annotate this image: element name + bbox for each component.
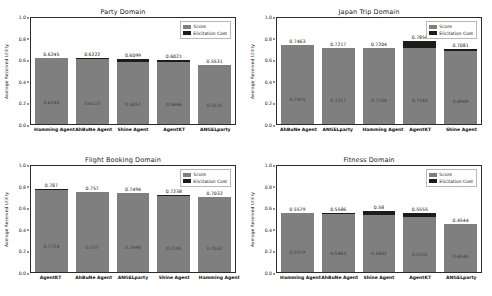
x-tick-label: Hamming Agent <box>34 127 67 132</box>
bar-score-label: 0.5857 <box>125 102 141 107</box>
bar-total-label: 0.4544 <box>453 218 469 223</box>
bar-column: 0.72170.7217 <box>322 18 355 124</box>
x-axis-ticks: Hamming AgentAhBuNe AgentShine AgentAgen… <box>276 275 482 285</box>
y-tick-label: 1.0 <box>265 15 272 20</box>
x-tick-label: Hamming Agent <box>199 275 232 280</box>
legend-swatch-elicitation-cost <box>183 179 191 183</box>
legend-label-elicitation-cost: Elicitation Cost <box>193 31 227 36</box>
bar-segment-score: 0.5857 <box>117 62 150 124</box>
y-axis-label: Average Received Utility <box>2 165 11 273</box>
legend-label-elicitation-cost: Elicitation Cost <box>439 179 473 184</box>
chart-panel-4: Fitness DomainAverage Received Utility0.… <box>246 148 492 296</box>
stacked-bar: 0.60210.5846 <box>157 60 190 124</box>
legend-label-score: Score <box>439 172 452 177</box>
legend-swatch-elicitation-cost <box>429 31 437 35</box>
legend-swatch-score <box>183 173 191 177</box>
legend-label-elicitation-cost: Elicitation Cost <box>439 31 473 36</box>
bar-total-label: 0.7238 <box>166 189 182 194</box>
legend-swatch-score <box>429 25 437 29</box>
y-tick-label: 0.0 <box>19 271 26 276</box>
bar-score-label: 0.7183 <box>412 98 428 103</box>
y-tick-label: 0.2 <box>19 101 26 106</box>
figure-grid: Party DomainAverage Received Utility0.00… <box>0 0 492 296</box>
legend-item-score: Score <box>429 172 473 177</box>
bar-column: 0.7870.7714 <box>35 166 68 272</box>
y-tick-label: 0.4 <box>265 227 272 232</box>
x-tick-label: AhBuNe Agent <box>75 275 108 280</box>
y-axis-label-text: Average Received Utility <box>4 44 9 99</box>
y-tick-label: 0.6 <box>265 206 272 211</box>
legend-item-score: Score <box>183 172 227 177</box>
bar-segment-score: 0.7204 <box>363 48 396 124</box>
stacked-bar: 0.55310.5531 <box>198 65 231 124</box>
stacked-bar: 0.55860.5483 <box>322 213 355 272</box>
y-tick-label: 0.8 <box>19 36 26 41</box>
y-axis-label: Average Received Utility <box>248 165 257 273</box>
x-tick-label: AgentKT <box>158 127 191 132</box>
y-axis-ticks: 0.00.20.40.60.81.0 <box>260 17 275 125</box>
bar-total-label: 0.757 <box>86 186 99 191</box>
y-tick-label: 0.4 <box>19 227 26 232</box>
bar-column: 0.62450.6245 <box>35 18 68 124</box>
bar-column: 0.55790.5579 <box>281 166 314 272</box>
stacked-bar: 0.60990.5857 <box>117 59 150 124</box>
stacked-bar: 0.72040.7204 <box>363 48 396 124</box>
chart-title: Japan Trip Domain <box>246 8 492 16</box>
x-axis-ticks: AhBuNe AgentANGELpartyHamming AgentAgent… <box>276 127 482 137</box>
plot-area: 0.55790.55790.55860.54830.580.54010.5555… <box>276 165 482 273</box>
bar-total-label: 0.6099 <box>125 53 141 58</box>
y-tick-label: 0.8 <box>265 184 272 189</box>
bar-score-label: 0.7425 <box>290 97 306 102</box>
x-tick-label: AgentKT <box>34 275 67 280</box>
chart-legend: ScoreElicitation Cost <box>426 21 477 39</box>
bar-segment-score: 0.4544 <box>444 224 477 272</box>
bar-segment-score: 0.7185 <box>157 196 190 272</box>
x-tick-label: AhBuNe Agent <box>75 127 108 132</box>
stacked-bar: 0.72170.7217 <box>322 48 355 125</box>
bar-column: 0.62220.6123 <box>76 18 109 124</box>
bar-total-label: 0.787 <box>45 183 58 188</box>
bar-column: 0.72040.7204 <box>363 18 396 124</box>
y-tick-label: 0.4 <box>265 79 272 84</box>
bar-segment-score: 0.7425 <box>281 45 314 124</box>
y-tick-label: 0.6 <box>19 206 26 211</box>
y-tick-label: 0.2 <box>265 101 272 106</box>
stacked-bar: 0.62220.6123 <box>76 58 109 124</box>
bar-total-label: 0.7463 <box>289 39 305 44</box>
bar-total-label: 0.7081 <box>453 43 469 48</box>
stacked-bar: 0.7870.7714 <box>35 189 68 272</box>
bar-score-label: 0.6245 <box>44 100 60 105</box>
legend-item-score: Score <box>429 24 473 29</box>
y-tick-label: 0.6 <box>265 58 272 63</box>
stacked-bar: 0.70320.7032 <box>198 197 231 272</box>
stacked-bar: 0.45440.4544 <box>444 224 477 272</box>
chart-panel-2: Japan Trip DomainAverage Received Utilit… <box>246 0 492 148</box>
legend-swatch-elicitation-cost <box>183 31 191 35</box>
x-tick-label: ANGELparty <box>321 127 354 132</box>
bar-total-label: 0.5579 <box>289 207 305 212</box>
bar-total-label: 0.6021 <box>166 54 182 59</box>
bar-score-label: 0.7185 <box>166 246 182 251</box>
legend-item-elicitation-cost: Elicitation Cost <box>429 31 473 36</box>
y-tick-label: 0.0 <box>265 271 272 276</box>
legend-item-elicitation-cost: Elicitation Cost <box>183 179 227 184</box>
legend-item-elicitation-cost: Elicitation Cost <box>429 179 473 184</box>
bar-segment-score: 0.5846 <box>157 62 190 124</box>
x-tick-label: Hamming Agent <box>362 127 395 132</box>
bar-total-label: 0.7217 <box>330 42 346 47</box>
bar-segment-score: 0.5483 <box>322 214 355 272</box>
bar-score-label: 0.5483 <box>330 251 346 256</box>
bar-score-label: 0.6909 <box>453 99 469 104</box>
bar-score-label: 0.4544 <box>453 254 469 259</box>
y-tick-label: 0.8 <box>265 36 272 41</box>
bar-score-label: 0.7204 <box>371 98 387 103</box>
legend-label-score: Score <box>193 172 206 177</box>
plot-area: 0.62450.62450.62220.61230.60990.58570.60… <box>30 17 236 125</box>
stacked-bar: 0.70810.6909 <box>444 49 477 124</box>
bar-segment-score: 0.7217 <box>322 48 355 125</box>
legend-swatch-score <box>183 25 191 29</box>
bar-column: 0.74630.7425 <box>281 18 314 124</box>
bar-column: 0.55860.5483 <box>322 166 355 272</box>
bar-score-label: 0.757 <box>86 245 99 250</box>
y-axis-label-text: Average Received Utility <box>4 192 9 247</box>
